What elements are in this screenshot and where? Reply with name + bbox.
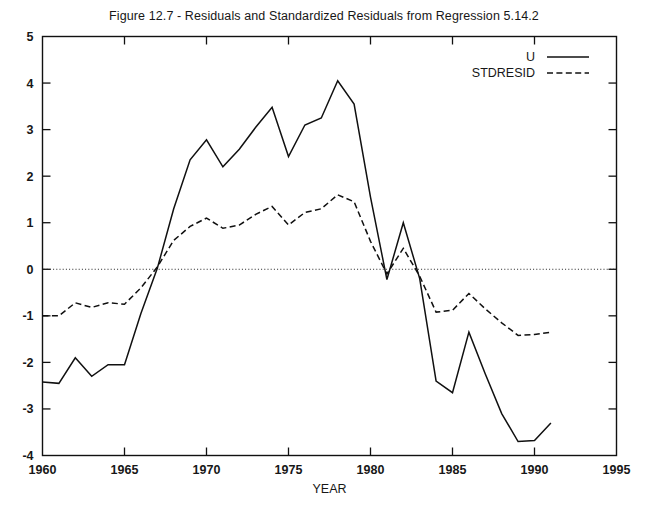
y-tick-label: 1 — [27, 216, 34, 230]
y-tick-label: -3 — [22, 402, 33, 416]
y-tick-label: 4 — [27, 77, 34, 91]
series-line-u — [43, 81, 551, 442]
x-tick-label: 1990 — [521, 463, 549, 477]
x-tick-label: 1980 — [357, 463, 385, 477]
y-tick-label: -1 — [22, 309, 33, 323]
y-tick-label: -4 — [22, 449, 33, 463]
series-line-stdresid — [43, 195, 551, 336]
chart-legend: USTDRESID — [472, 50, 589, 80]
x-tick-label: 1985 — [439, 463, 467, 477]
legend-label-u: U — [526, 50, 535, 64]
y-tick-label: 5 — [27, 30, 34, 44]
x-tick-label: 1965 — [111, 463, 139, 477]
x-tick-label: 1975 — [275, 463, 303, 477]
y-tick-label: 0 — [27, 263, 34, 277]
legend-label-stdresid: STDRESID — [472, 66, 535, 80]
chart-canvas: -4-3-2-1012345 1960196519701975198019851… — [0, 0, 648, 508]
x-tick-label: 1960 — [29, 463, 57, 477]
x-tick-label: 1995 — [603, 463, 631, 477]
y-tick-label: -2 — [22, 356, 33, 370]
y-tick-label: 2 — [27, 170, 34, 184]
y-axis-tick-labels: -4-3-2-1012345 — [22, 30, 33, 463]
x-axis-title: YEAR — [312, 482, 346, 496]
y-tick-label: 3 — [27, 123, 34, 137]
figure-container: Figure 12.7 - Residuals and Standardized… — [0, 0, 648, 508]
x-axis-tick-labels: 19601965197019751980198519901995 — [29, 463, 631, 477]
x-tick-label: 1970 — [193, 463, 221, 477]
